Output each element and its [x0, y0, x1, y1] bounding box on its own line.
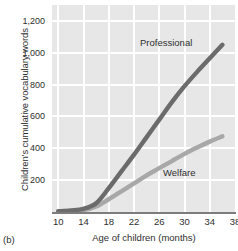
- x-tick-label: 30: [179, 216, 190, 227]
- x-tick-label: 38: [230, 216, 238, 227]
- x-tick-label: 14: [78, 216, 89, 227]
- y-tick-label: 800: [0, 80, 45, 90]
- series-label-professional: Professional: [140, 37, 192, 48]
- x-tick-label: 26: [154, 216, 165, 227]
- figure-caption: (b): [3, 234, 15, 245]
- y-axis-tick-labels: 2004006008001,0001,200: [0, 0, 49, 213]
- y-tick-label: 200: [0, 175, 45, 185]
- x-axis-title: Age of children (months): [52, 232, 236, 243]
- x-axis-tick-labels: 1014182226303438: [0, 214, 238, 230]
- series-line-professional: [58, 45, 222, 211]
- y-tick-label: 1,000: [0, 48, 45, 58]
- x-tick-label: 34: [204, 216, 215, 227]
- y-tick-label: 400: [0, 143, 45, 153]
- series-label-welfare: Welfare: [163, 167, 196, 178]
- x-tick-label: 10: [53, 216, 64, 227]
- x-tick-label: 18: [103, 216, 114, 227]
- x-tick-label: 22: [129, 216, 140, 227]
- y-tick-label: 600: [0, 111, 45, 121]
- y-tick-label: 1,200: [0, 16, 45, 26]
- figure-panel-b: Children's cumulative vocabulary words 2…: [0, 0, 238, 251]
